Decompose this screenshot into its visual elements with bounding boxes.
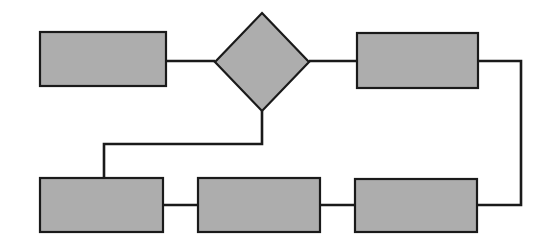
process-box-2[interactable] — [357, 33, 478, 88]
process-box-4[interactable] — [198, 178, 320, 232]
process-box-1[interactable] — [40, 32, 166, 86]
process-box-3[interactable] — [40, 178, 163, 232]
flowchart-diagram — [0, 0, 553, 250]
process-box-5[interactable] — [355, 179, 477, 232]
flowchart-canvas — [0, 0, 553, 250]
